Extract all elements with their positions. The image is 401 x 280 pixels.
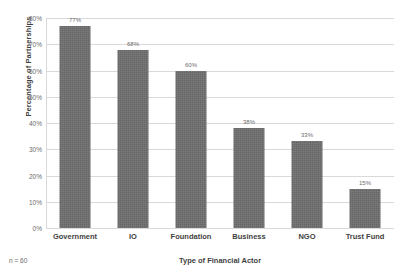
plot-area: 0%10%20%30%40%50%60%70%80% 77%Government… xyxy=(46,18,394,228)
x-axis-category-label: Government xyxy=(53,232,97,241)
x-axis-category-label: IO xyxy=(129,232,137,241)
y-axis-tick-label: 20% xyxy=(29,172,42,179)
x-axis-category-label: Trust Fund xyxy=(346,232,385,241)
bar[interactable] xyxy=(234,128,265,228)
bar-value-label: 77% xyxy=(69,17,81,23)
y-axis-tick-label: 10% xyxy=(29,198,42,205)
bar-group[interactable]: 33%NGO xyxy=(278,18,336,228)
bar-value-label: 33% xyxy=(301,132,313,138)
bar[interactable] xyxy=(118,50,149,229)
y-axis-tick-label: 50% xyxy=(29,93,42,100)
bar[interactable] xyxy=(350,189,381,228)
bar-group[interactable]: 38%Business xyxy=(220,18,278,228)
y-axis-tick-label: 40% xyxy=(29,120,42,127)
bar-value-label: 68% xyxy=(127,41,139,47)
bars-layer: 77%Government68%IO60%Foundation38%Busine… xyxy=(46,18,394,228)
bar-group[interactable]: 77%Government xyxy=(46,18,104,228)
y-axis-tick-label: 0% xyxy=(33,225,42,232)
bar-group[interactable]: 68%IO xyxy=(104,18,162,228)
bar-chart-figure: Percentage of Partnerships 0%10%20%30%40… xyxy=(0,0,401,280)
bar[interactable] xyxy=(176,71,207,229)
x-axis-category-label: Foundation xyxy=(171,232,212,241)
x-axis-category-label: NGO xyxy=(298,232,315,241)
bar-group[interactable]: 15%Trust Fund xyxy=(336,18,394,228)
bar[interactable] xyxy=(60,26,91,228)
gridline xyxy=(46,228,394,229)
bar-value-label: 38% xyxy=(243,119,255,125)
bar-value-label: 60% xyxy=(185,62,197,68)
bar[interactable] xyxy=(292,141,323,228)
y-axis-tick-label: 60% xyxy=(29,67,42,74)
y-axis-tick-label: 70% xyxy=(29,41,42,48)
x-axis-title: Type of Financial Actor xyxy=(46,256,394,265)
sample-size-note: n = 60 xyxy=(9,257,27,264)
y-axis-tick-label: 80% xyxy=(29,15,42,22)
x-axis-category-label: Business xyxy=(232,232,265,241)
bar-value-label: 15% xyxy=(359,180,371,186)
bar-group[interactable]: 60%Foundation xyxy=(162,18,220,228)
y-axis-tick-label: 30% xyxy=(29,146,42,153)
